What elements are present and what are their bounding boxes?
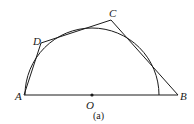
semicircle-arc <box>25 28 159 95</box>
figure-caption: (a) <box>93 110 104 122</box>
label-b: B <box>180 90 187 102</box>
label-a: A <box>14 90 22 102</box>
geometry-diagram: A B C D O (a) <box>0 0 194 124</box>
tangent-polyline-adcb <box>24 20 178 95</box>
center-point-o <box>90 93 93 96</box>
label-c: C <box>109 7 117 19</box>
label-d: D <box>32 35 41 47</box>
